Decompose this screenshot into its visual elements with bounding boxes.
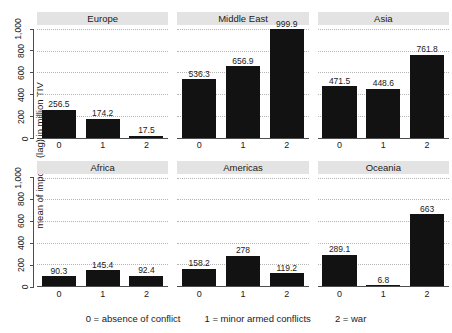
y-tick-mark <box>30 265 34 266</box>
x-tick-label: 1 <box>86 140 120 150</box>
bar-group: 471.5448.6761.8 <box>318 29 449 138</box>
x-axis-ticks: 012 <box>318 139 449 152</box>
y-tick-mark <box>30 94 34 95</box>
bar <box>226 256 260 286</box>
x-tick-label: 2 <box>129 140 163 150</box>
bar-slot: 663 <box>410 178 444 287</box>
bar-value-label: 90.3 <box>51 267 68 276</box>
bar-slot: 145.4 <box>86 178 120 287</box>
panel-plot-area: 536.3656.9999.9012 <box>177 29 308 152</box>
bar <box>129 276 163 286</box>
bar-value-label: 278 <box>236 246 250 255</box>
bar <box>366 89 400 138</box>
panel-strip-label: Oceania <box>318 161 449 174</box>
x-axis-ticks: 012 <box>318 287 449 300</box>
bar <box>322 255 356 286</box>
y-tick: 600 <box>14 216 34 226</box>
bar <box>182 79 216 137</box>
y-tick-label: 400 <box>16 88 26 102</box>
y-tick-label: 600 <box>16 66 26 80</box>
y-tick: 200 <box>14 112 34 122</box>
panel-africa: Africa90.3145.492.4012 <box>37 161 168 301</box>
bar <box>182 269 216 286</box>
y-tick-mark <box>30 221 34 222</box>
bar-slot: 256.5 <box>42 29 76 138</box>
bar-value-label: 656.9 <box>232 57 253 66</box>
x-tick-label: 2 <box>410 289 444 299</box>
y-tick-label: 1,000 <box>12 18 22 39</box>
bar-group: 158.2278119.2 <box>177 178 308 287</box>
y-tick: 200 <box>14 260 34 270</box>
y-tick: 800 <box>14 46 34 56</box>
panel-grid: Europe256.5174.217.5012Middle East536.36… <box>37 12 449 300</box>
y-tick-label: 0 <box>21 136 31 141</box>
y-tick-mark <box>30 287 34 288</box>
bar-value-label: 536.3 <box>189 70 210 79</box>
plot-inner: 289.16.8663 <box>318 178 449 288</box>
panel-middle-east: Middle East536.3656.9999.9012 <box>177 12 308 152</box>
x-tick-label: 0 <box>322 140 356 150</box>
bar <box>226 66 260 137</box>
x-tick-label: 1 <box>366 289 400 299</box>
panel-americas: Americas158.2278119.2012 <box>177 161 308 301</box>
y-tick-mark <box>30 72 34 73</box>
y-tick-label: 600 <box>16 214 26 228</box>
x-tick-label: 0 <box>182 140 216 150</box>
y-tick: 800 <box>14 194 34 204</box>
bar <box>86 119 120 138</box>
x-axis-ticks: 012 <box>177 287 308 300</box>
bar-slot: 90.3 <box>42 178 76 287</box>
y-tick-label: 800 <box>16 192 26 206</box>
bar <box>270 29 304 137</box>
bar-value-label: 256.5 <box>48 100 69 109</box>
faceted-bar-chart: mean of imports (lag) in million TIV Eur… <box>0 0 452 333</box>
bar-value-label: 158.2 <box>189 259 210 268</box>
bar-group: 256.5174.217.5 <box>37 29 168 138</box>
x-tick-label: 1 <box>226 289 260 299</box>
panel-europe: Europe256.5174.217.5012 <box>37 12 168 152</box>
y-tick: 0 <box>23 282 34 292</box>
plot-inner: 90.3145.492.4 <box>37 178 168 288</box>
x-axis-ticks: 012 <box>177 139 308 152</box>
y-tick: 1,000 <box>7 24 34 34</box>
bar-value-label: 663 <box>420 205 434 214</box>
x-tick-label: 0 <box>42 140 76 150</box>
chart-caption: 0 = absence of conflict1 = minor armed c… <box>0 313 452 324</box>
plot-inner: 158.2278119.2 <box>177 178 308 288</box>
x-tick-label: 2 <box>270 289 304 299</box>
bar-slot: 289.1 <box>322 178 356 287</box>
bar-slot: 761.8 <box>410 29 444 138</box>
bar-slot: 17.5 <box>129 29 163 138</box>
y-tick: 1,000 <box>7 173 34 183</box>
x-tick-label: 0 <box>42 289 76 299</box>
bar-slot: 656.9 <box>226 29 260 138</box>
bar <box>42 276 76 286</box>
bar-value-label: 448.6 <box>373 79 394 88</box>
bar-slot: 92.4 <box>129 178 163 287</box>
panel-asia: Asia471.5448.6761.8012 <box>318 12 449 152</box>
x-tick-label: 0 <box>322 289 356 299</box>
x-tick-label: 1 <box>226 140 260 150</box>
bar-slot: 536.3 <box>182 29 216 138</box>
bar-slot: 174.2 <box>86 29 120 138</box>
bar <box>366 285 400 286</box>
y-tick: 0 <box>23 134 34 144</box>
y-tick-mark <box>30 199 34 200</box>
bar-value-label: 145.4 <box>92 261 113 270</box>
y-tick-mark <box>30 138 34 139</box>
y-tick-label: 200 <box>16 110 26 124</box>
plot-inner: 471.5448.6761.8 <box>318 29 449 139</box>
bar <box>410 55 444 138</box>
x-tick-label: 2 <box>270 140 304 150</box>
panel-plot-area: 256.5174.217.5012 <box>37 29 168 152</box>
bar-group: 90.3145.492.4 <box>37 178 168 287</box>
caption-item: 2 = war <box>335 313 366 324</box>
bar-group: 289.16.8663 <box>318 178 449 287</box>
bar-group: 536.3656.9999.9 <box>177 29 308 138</box>
bar-value-label: 289.1 <box>329 245 350 254</box>
bar-slot: 6.8 <box>366 178 400 287</box>
x-tick-label: 1 <box>86 289 120 299</box>
y-tick-label: 200 <box>16 258 26 272</box>
panel-plot-area: 158.2278119.2012 <box>177 178 308 301</box>
panel-oceania: Oceania289.16.8663012 <box>318 161 449 301</box>
